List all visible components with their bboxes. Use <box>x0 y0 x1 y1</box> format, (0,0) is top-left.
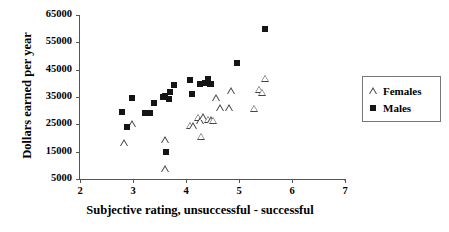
data-point-male <box>208 81 214 87</box>
data-point-male <box>145 110 151 116</box>
data-point-female <box>258 89 266 96</box>
data-point-female <box>227 87 235 94</box>
data-point-male <box>234 60 240 66</box>
plot-area: 5000150002500035000450005500065000234567 <box>79 15 345 180</box>
y-axis-tick-label: 15000 <box>46 145 72 156</box>
data-point-female <box>120 139 128 146</box>
data-point-female <box>204 116 212 123</box>
data-point-female <box>207 116 215 123</box>
x-axis-tick: 3 <box>133 179 134 183</box>
data-point-male <box>207 81 213 87</box>
y-axis-tick: 45000 <box>76 70 80 71</box>
data-point-male <box>151 100 157 106</box>
data-point-female <box>255 86 263 93</box>
data-point-male <box>163 149 169 155</box>
x-axis-tick: 4 <box>186 179 187 183</box>
x-axis-tick: 2 <box>80 179 81 183</box>
legend-label-females: Females <box>383 85 421 97</box>
data-point-male <box>147 110 153 116</box>
x-axis-tick-label: 7 <box>335 185 355 196</box>
y-axis-tick-label: 5000 <box>51 172 72 183</box>
x-axis-tick: 6 <box>292 179 293 183</box>
x-axis-tick: 7 <box>345 179 346 183</box>
y-axis-tick-label: 45000 <box>46 63 72 74</box>
data-point-male <box>202 80 208 86</box>
data-point-female <box>186 122 194 129</box>
y-axis-tick-label: 35000 <box>46 90 72 101</box>
data-point-female <box>212 94 220 101</box>
legend-item-females: Females <box>368 82 440 99</box>
x-axis-tick-label: 2 <box>70 185 90 196</box>
data-point-female <box>161 165 169 172</box>
y-axis-tick: 35000 <box>76 97 80 98</box>
y-axis-tick: 55000 <box>76 42 80 43</box>
data-point-female <box>225 104 233 111</box>
data-point-male <box>142 110 148 116</box>
data-point-female <box>194 114 202 121</box>
data-point-female <box>250 105 258 112</box>
data-point-male <box>262 26 268 32</box>
x-axis-tick: 5 <box>239 179 240 183</box>
x-axis-tick-label: 4 <box>176 185 196 196</box>
data-point-female <box>128 120 136 127</box>
data-point-male <box>205 76 211 82</box>
data-point-male <box>119 109 125 115</box>
filled-square-icon <box>368 102 379 113</box>
data-point-male <box>167 89 173 95</box>
y-axis-title: Dollars earned per year <box>20 6 35 186</box>
data-point-male <box>129 95 135 101</box>
data-point-female <box>197 133 205 140</box>
data-point-male <box>166 96 172 102</box>
data-point-male <box>171 82 177 88</box>
y-axis-tick: 15000 <box>76 152 80 153</box>
y-axis-tick-label: 25000 <box>46 117 72 128</box>
y-axis-tick: 25000 <box>76 124 80 125</box>
y-axis-tick-label: 65000 <box>46 8 72 19</box>
data-point-female <box>261 75 269 82</box>
data-point-female <box>199 113 207 120</box>
y-axis-tick-label: 55000 <box>46 35 72 46</box>
data-point-male <box>162 93 168 99</box>
data-point-female <box>196 117 204 124</box>
data-point-female <box>189 122 197 129</box>
legend-label-males: Males <box>383 102 411 114</box>
data-point-female <box>161 136 169 143</box>
scatter-plot-figure: Dollars earned per year 5000150002500035… <box>0 0 449 232</box>
y-axis-tick: 65000 <box>76 15 80 16</box>
data-point-male <box>189 91 195 97</box>
chart-legend: Females Males <box>362 76 441 122</box>
x-axis-tick-label: 6 <box>282 185 302 196</box>
x-axis-title: Subjective rating, unsuccessful - succes… <box>40 203 360 218</box>
data-point-male <box>187 77 193 83</box>
legend-item-males: Males <box>368 99 440 116</box>
x-axis-tick-label: 5 <box>229 185 249 196</box>
x-axis-tick-label: 3 <box>123 185 143 196</box>
open-triangle-icon <box>368 85 379 96</box>
data-point-female <box>209 117 217 124</box>
data-point-male <box>124 124 130 130</box>
data-point-male <box>160 94 166 100</box>
data-point-female <box>216 104 224 111</box>
data-point-male <box>197 81 203 87</box>
